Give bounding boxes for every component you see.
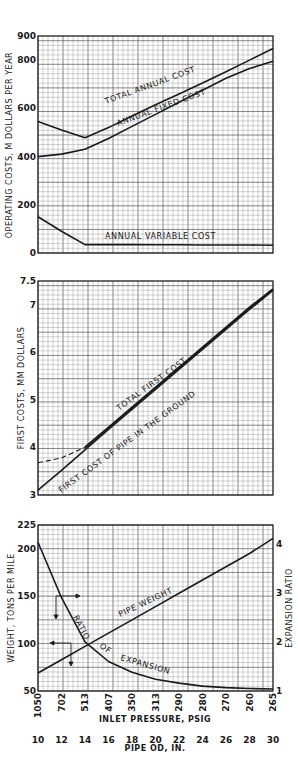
- inlet-pressure-tick: 1050: [33, 693, 43, 718]
- y2-tick-label: 3: [276, 588, 282, 598]
- pipe-od-tick: 10: [32, 735, 45, 745]
- inlet-pressure-tick: 702: [57, 693, 67, 712]
- pipe-od-tick: 24: [196, 735, 209, 745]
- y-tick-label: 600: [17, 103, 36, 113]
- pipe-od-tick: 14: [79, 735, 92, 745]
- inlet-pressure-tick: 290: [174, 693, 184, 712]
- chart3-y-axis-label: WEIGHT, TONS PER MILE: [7, 553, 16, 663]
- inlet-pressure-tick: 313: [151, 693, 161, 712]
- y2-tick-label: 2: [276, 637, 282, 647]
- chart3-pipe-weight-label: PIPE WEIGHT: [117, 586, 174, 619]
- pipe-od-tick: 12: [55, 735, 68, 745]
- inlet-pressure-tick: 260: [245, 693, 255, 712]
- chart3-y2-axis-label: EXPANSION RATIO: [285, 568, 294, 648]
- y-tick-label: 3: [30, 490, 36, 500]
- chart2-y-axis-label: FIRST COSTS, MM DOLLARS: [17, 327, 26, 450]
- chart3-pipe-od-label: PIPE OD, IN.: [125, 744, 186, 753]
- chart-figure: 0200400600800900345677.55010015020022512…: [0, 0, 298, 759]
- y2-tick-label: 4: [276, 539, 282, 549]
- pipe-od-tick: 16: [102, 735, 115, 745]
- y-tick-label: 7.5: [20, 276, 36, 286]
- y-tick-label: 200: [17, 544, 36, 554]
- y-tick-label: 800: [17, 55, 36, 65]
- pipe-od-tick: 30: [267, 735, 280, 745]
- y-tick-label: 200: [17, 200, 36, 210]
- y-tick-label: 150: [17, 591, 36, 601]
- inlet-pressure-tick: 513: [80, 693, 90, 712]
- y-tick-label: 100: [17, 639, 36, 649]
- pipe-od-tick: 28: [243, 735, 256, 745]
- inlet-pressure-tick: 407: [104, 693, 114, 712]
- chart1-annual-variable-cost-label: ANNUAL VARIABLE COST: [105, 232, 216, 241]
- inlet-pressure-tick: 350: [127, 693, 137, 712]
- chart1-y-axis-label: OPERATING COSTS, M DOLLARS PER YEAR: [5, 52, 14, 238]
- chart3-expansion-label: EXPANSION: [119, 653, 171, 676]
- y-tick-label: 6: [30, 347, 36, 357]
- y-tick-label: 900: [17, 31, 36, 41]
- inlet-pressure-tick: 280: [198, 693, 208, 712]
- y-tick-label: 400: [17, 152, 36, 162]
- y-tick-label: 7: [30, 300, 36, 310]
- y-tick-label: 225: [17, 520, 36, 530]
- chart3-ratio-label: RATIO: [71, 614, 91, 642]
- y-tick-label: 4: [30, 442, 36, 452]
- y-tick-label: 0: [30, 248, 36, 258]
- inlet-pressure-tick: 270: [221, 693, 231, 712]
- y-tick-label: 5: [30, 395, 36, 405]
- chart3-weight-arrow-icon: [50, 641, 73, 666]
- chart3-inlet-pressure-label: INLET PRESSURE, PSIG: [99, 715, 211, 724]
- pipe-od-tick: 26: [220, 735, 233, 745]
- inlet-pressure-tick: 265: [268, 693, 278, 712]
